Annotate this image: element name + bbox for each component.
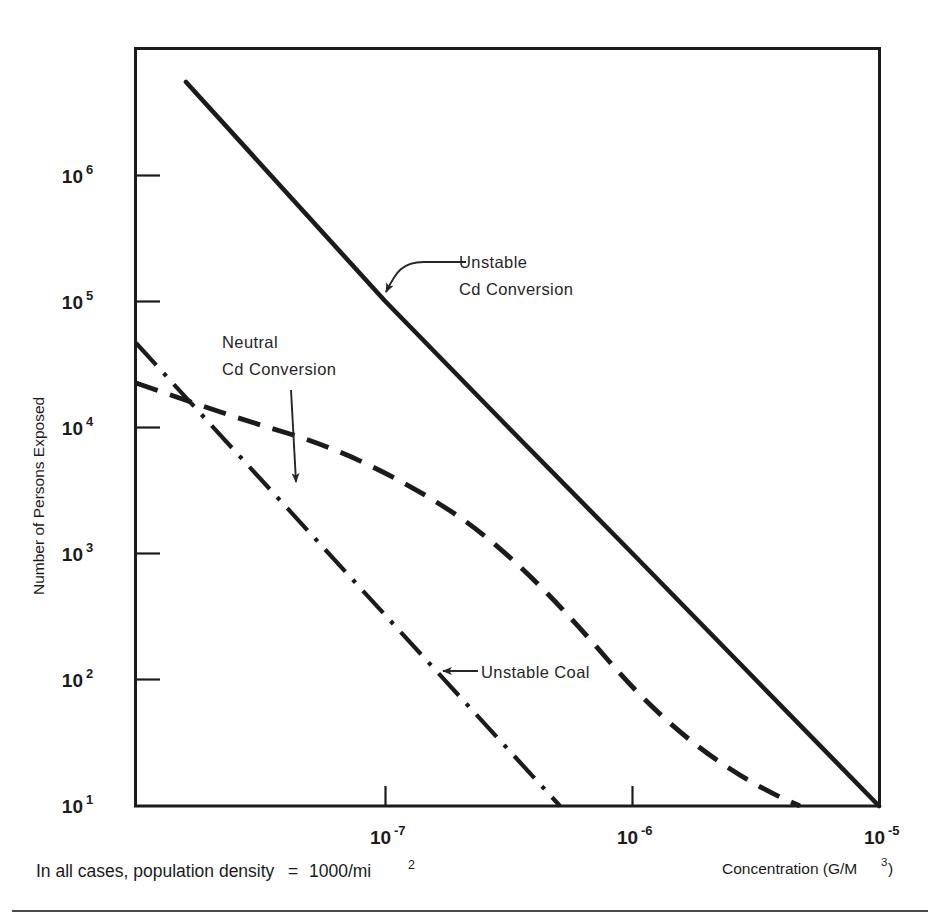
- x-tick-label-1e-6-base: 10: [617, 827, 638, 848]
- y-tick-labels: 10 6 10 5 10 4 10 3 10 2 10 1: [62, 162, 94, 817]
- y-axis-title: Number of Persons Exposed: [30, 397, 47, 595]
- chart-figure: 10 6 10 5 10 4 10 3 10 2 10 1 10 -7 10 -…: [0, 0, 934, 916]
- y-tick-label-1e4-exp: 4: [86, 414, 94, 429]
- caption-exponent: 2: [408, 858, 415, 872]
- x-tick-label-1e-7-base: 10: [370, 827, 391, 848]
- series-unstable-cd-conversion: [186, 82, 879, 806]
- y-tick-label-1e3-exp: 3: [86, 540, 93, 555]
- annotation-unstable-cd-conversion: Unstable Cd Conversion: [386, 253, 573, 298]
- annotation-label-neutral-cd-line2: Cd Conversion: [222, 360, 336, 378]
- y-tick-label-1e5-base: 10: [62, 292, 83, 313]
- figure-caption: In all cases, population density = 1000/…: [36, 858, 415, 881]
- x-axis-title-close: ): [888, 860, 893, 877]
- x-tick-label-1e-5-base: 10: [864, 827, 885, 848]
- annotation-leader-unstable-cd: [386, 262, 466, 292]
- y-tick-label-1e4-base: 10: [62, 418, 83, 439]
- annotation-unstable-coal: Unstable Coal: [443, 663, 590, 681]
- y-tick-label-1e1-exp: 1: [86, 792, 93, 807]
- y-tick-label-1e6-exp: 6: [86, 162, 93, 177]
- caption-text-after: 1000/mi: [309, 861, 371, 881]
- caption-text-before: In all cases, population density: [36, 861, 275, 881]
- y-tick-label-1e2-base: 10: [62, 670, 83, 691]
- y-tick-label-1e2-exp: 2: [86, 666, 93, 681]
- chart-canvas: 10 6 10 5 10 4 10 3 10 2 10 1 10 -7 10 -…: [0, 0, 934, 916]
- y-tick-label-1e5-exp: 5: [86, 288, 93, 303]
- x-tick-label-1e-7-exp: -7: [394, 823, 406, 838]
- annotation-neutral-cd-conversion: Neutral Cd Conversion: [222, 333, 336, 482]
- annotation-label-neutral-cd-line1: Neutral: [222, 333, 278, 351]
- x-axis-title: Concentration (G/M 3 ): [722, 856, 893, 877]
- annotation-label-unstable-cd-line2: Cd Conversion: [459, 280, 573, 298]
- x-tick-labels: 10 -7 10 -6 10 -5: [370, 823, 900, 848]
- y-tick-label-1e1-base: 10: [62, 796, 83, 817]
- series-neutral-cd-conversion: [136, 383, 800, 806]
- x-axis-ticks: [386, 786, 633, 806]
- y-axis-ticks: [135, 176, 160, 680]
- x-axis-title-exp: 3: [881, 856, 887, 868]
- caption-equals: =: [288, 861, 298, 881]
- x-axis-title-base: Concentration (G/M: [722, 860, 857, 877]
- figure-page: 10 6 10 5 10 4 10 3 10 2 10 1 10 -7 10 -…: [0, 0, 934, 916]
- annotation-label-unstable-coal: Unstable Coal: [481, 663, 590, 681]
- x-tick-label-1e-5-exp: -5: [888, 823, 900, 838]
- y-tick-label-1e6-base: 10: [62, 166, 83, 187]
- annotation-label-unstable-cd-line1: Unstable: [459, 253, 527, 271]
- y-tick-label-1e3-base: 10: [62, 544, 83, 565]
- x-tick-label-1e-6-exp: -6: [641, 823, 653, 838]
